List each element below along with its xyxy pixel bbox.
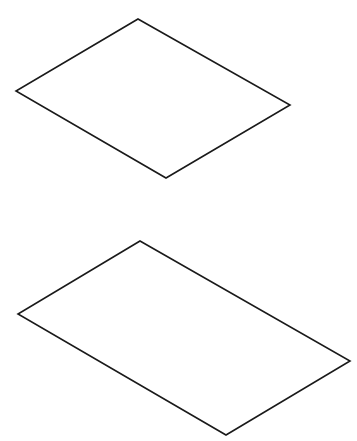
parallelogram-top <box>16 19 290 178</box>
parallelogram-bottom <box>18 241 350 435</box>
diagram-canvas <box>0 0 357 441</box>
